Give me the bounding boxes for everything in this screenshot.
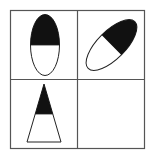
puzzle-figure xyxy=(0,0,153,163)
cell-bottom-left-triangle xyxy=(27,84,61,142)
cell-top-right-tilted-ellipse xyxy=(78,12,144,78)
puzzle-svg xyxy=(0,0,153,163)
cell-top-left-vertical-ellipse xyxy=(31,15,60,76)
